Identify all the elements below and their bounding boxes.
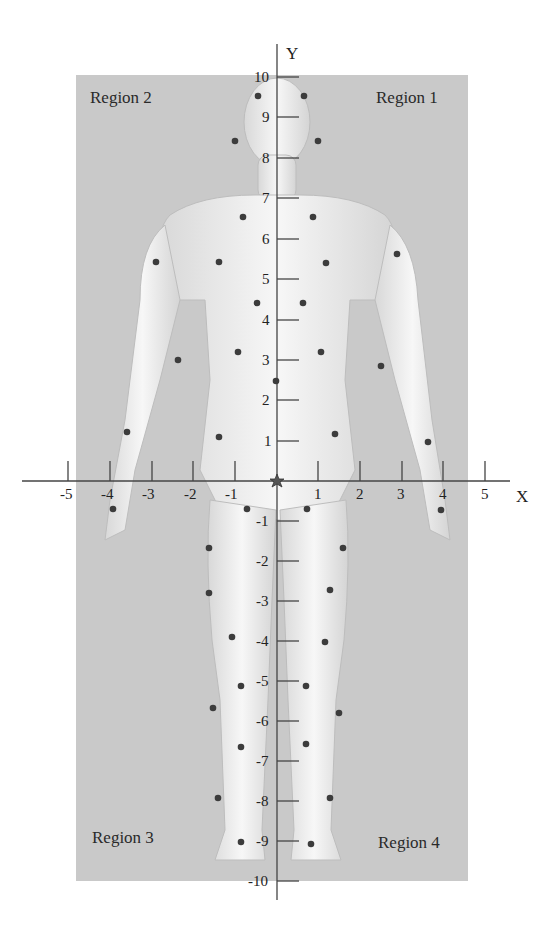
y-axis-label: Y — [286, 44, 298, 64]
y-tick-label: -7 — [256, 754, 269, 769]
y-tick-label: 7 — [262, 191, 270, 206]
region-4-label: Region 4 — [378, 833, 440, 853]
y-tick-label: 4 — [262, 313, 270, 328]
y-tick-label: -1 — [256, 514, 269, 529]
y-tick-label: 3 — [262, 353, 270, 368]
x-tick-label: -4 — [101, 487, 114, 502]
x-tick-label: 3 — [397, 487, 405, 502]
x-tick-label: -5 — [60, 487, 73, 502]
y-tick-label: 10 — [254, 70, 269, 85]
y-tick-label: 9 — [262, 110, 270, 125]
x-tick-label: 2 — [356, 487, 364, 502]
x-tick-label: -1 — [225, 487, 238, 502]
region-3-label: Region 3 — [92, 828, 154, 848]
y-tick-label: -4 — [256, 634, 269, 649]
region-1-label: Region 1 — [376, 88, 438, 108]
y-tick-label: 6 — [262, 232, 270, 247]
region-2-label: Region 2 — [90, 88, 152, 108]
y-tick-label: -6 — [256, 714, 269, 729]
y-tick-label: -2 — [256, 554, 269, 569]
y-tick-label: -10 — [248, 874, 268, 889]
x-tick-label: -2 — [184, 487, 197, 502]
y-tick-label: 5 — [262, 272, 270, 287]
x-tick-label: 4 — [439, 487, 447, 502]
x-axis-label: X — [516, 487, 528, 507]
y-tick-label: 1 — [264, 434, 272, 449]
x-tick-label: -3 — [142, 487, 155, 502]
x-tick-label: 5 — [481, 487, 489, 502]
y-tick-label: -8 — [256, 794, 269, 809]
x-tick-label: 1 — [314, 487, 322, 502]
y-tick-label: -3 — [256, 594, 269, 609]
y-tick-label: 8 — [262, 151, 270, 166]
y-tick-label: -5 — [256, 674, 269, 689]
y-tick-label: 2 — [262, 393, 270, 408]
body-coordinate-figure: Region 1 Region 2 Region 3 Region 4 Y X … — [0, 0, 560, 943]
body-silhouette-and-axes — [0, 0, 560, 943]
y-tick-label: -9 — [256, 834, 269, 849]
